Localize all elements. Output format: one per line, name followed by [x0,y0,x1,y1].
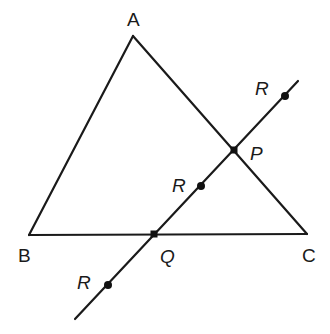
label-q: Q [160,246,175,267]
side-bc [29,234,307,235]
point-p-marker [231,147,238,154]
side-ac [133,36,307,234]
label-p: P [250,143,263,164]
label-b: B [18,245,31,266]
point-r-middle [197,182,205,190]
point-q-marker [151,231,158,238]
label-r-middle: R [172,175,186,196]
point-r-upper [281,92,289,100]
label-a: A [127,9,140,30]
geometry-diagram: A B C P Q R R R [0,0,330,334]
label-r-lower: R [77,272,91,293]
label-c: C [302,245,316,266]
label-r-upper: R [255,78,269,99]
side-ab [29,36,133,235]
point-r-lower [104,281,112,289]
